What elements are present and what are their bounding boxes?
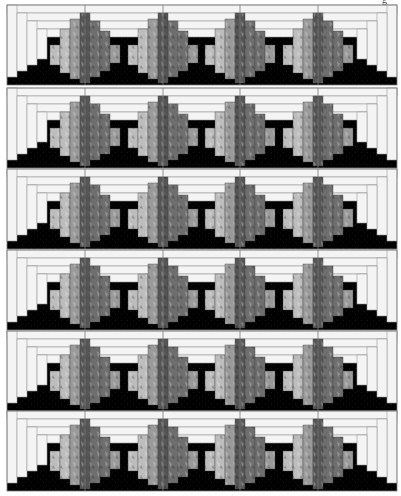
quilt-row [7,5,397,85]
quilt-row [7,411,397,491]
quilt-row [7,331,397,411]
quilt-row [7,169,397,249]
quilt-row [7,250,397,330]
quilt-row [7,88,397,168]
quilt-pattern-image [0,0,401,496]
